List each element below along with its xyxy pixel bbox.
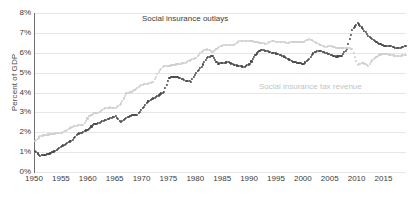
data-point (120, 102, 122, 104)
y-axis-tick-label: 7% (5, 29, 31, 37)
data-point (353, 52, 355, 54)
data-point (367, 65, 369, 67)
data-point (354, 56, 356, 58)
y-axis-tick-label: 5% (5, 69, 31, 77)
chart-container: Percent of GDP 0%1%2%3%4%5%6%7%8% 195019… (0, 0, 409, 201)
data-point (123, 97, 125, 99)
data-point (155, 76, 157, 78)
x-axis-tick-label: 2015 (375, 174, 393, 183)
x-axis-tick-label: 1985 (213, 174, 231, 183)
gridline (35, 172, 406, 173)
x-axis-tick-label: 1965 (106, 174, 124, 183)
x-axis-tick-label: 1960 (79, 174, 97, 183)
data-point (351, 48, 353, 50)
data-point (121, 100, 123, 102)
x-axis-tick-label: 1990 (240, 174, 258, 183)
x-axis-tick-labels: 1950195519601965197019751980198519901995… (34, 174, 405, 188)
data-point (154, 78, 156, 80)
x-axis-tick-label: 2005 (321, 174, 339, 183)
series-label-revenue: Social insurance tax revenue (259, 82, 362, 91)
y-axis-tick-label: 2% (5, 128, 31, 136)
y-axis-tick-label: 1% (5, 148, 31, 156)
y-axis-tick-label: 8% (5, 9, 31, 17)
data-point (370, 61, 372, 63)
y-axis-tick-label: 3% (5, 108, 31, 116)
x-axis-tick-label: 2010 (348, 174, 366, 183)
x-axis-tick-label: 1970 (133, 174, 151, 183)
plot-area (34, 13, 406, 173)
data-point (371, 59, 373, 61)
series-label-outlays: Social insurance outlays (142, 14, 228, 23)
data-point (86, 117, 88, 119)
y-axis-tick-labels: 0%1%2%3%4%5%6%7%8% (5, 0, 31, 201)
x-axis-tick-label: 2000 (294, 174, 312, 183)
x-axis-tick-label: 1995 (267, 174, 285, 183)
data-point (152, 81, 154, 83)
y-axis-tick-label: 6% (5, 49, 31, 57)
data-point (369, 63, 371, 65)
data-point (84, 122, 86, 124)
series-revenue (35, 13, 406, 172)
x-axis-tick-label: 1975 (160, 174, 178, 183)
data-point (405, 54, 407, 56)
data-point (355, 60, 357, 62)
data-point (85, 119, 87, 121)
data-point (156, 73, 158, 75)
data-point (124, 95, 126, 97)
x-axis-tick-label: 1980 (186, 174, 204, 183)
x-axis-tick-label: 1950 (25, 174, 43, 183)
y-axis-tick-label: 4% (5, 89, 31, 97)
x-axis-tick-label: 1955 (52, 174, 70, 183)
data-point (82, 124, 84, 126)
